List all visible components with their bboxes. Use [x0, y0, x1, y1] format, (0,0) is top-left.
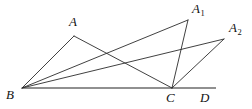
geometry-figure: A A1 A2 B C D: [0, 0, 252, 109]
figure-canvas: [0, 0, 252, 109]
segment-A2-C: [172, 39, 224, 88]
vertex-label-A1-text: A: [192, 1, 200, 16]
vertex-label-B: B: [6, 88, 14, 101]
vertex-label-A1-subscript: 1: [200, 8, 204, 18]
vertex-label-A1: A1: [192, 2, 204, 15]
segment-A1-C: [172, 20, 188, 88]
segment-B-A: [22, 36, 74, 88]
vertex-label-C-text: C: [166, 90, 175, 105]
vertex-label-A2: A2: [229, 21, 241, 34]
vertex-label-D: D: [200, 91, 209, 104]
vertex-label-A2-text: A: [229, 20, 237, 35]
vertex-label-D-text: D: [200, 90, 209, 105]
segment-A-C: [74, 36, 172, 88]
vertex-label-B-text: B: [6, 87, 14, 102]
vertex-label-A-text: A: [69, 14, 77, 29]
vertex-label-C: C: [166, 91, 175, 104]
vertex-label-A2-subscript: 2: [237, 27, 241, 37]
vertex-label-A: A: [69, 15, 77, 28]
